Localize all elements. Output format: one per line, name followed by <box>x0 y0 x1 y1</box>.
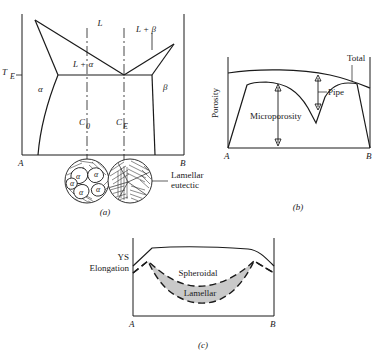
microstructure-hypoeutectic: α α α α α <box>65 157 110 204</box>
panel-c-ylabel-elongation: Elongation <box>90 263 130 273</box>
panel-a-caption: (a) <box>100 207 111 217</box>
panel-a-label-c0: C 0 <box>79 117 90 131</box>
panel-a-label-liquid-beta: L + β <box>135 24 156 34</box>
panel-a-label-ce: C E <box>116 117 128 131</box>
panel-b-pipe-arrow <box>315 75 327 110</box>
panel-a-label-alpha: α <box>38 84 43 94</box>
microstructure-lamellar-eutectic <box>108 159 152 203</box>
panel-b-label-pipe: Pipe <box>328 87 344 97</box>
panel-c-caption: (c) <box>198 340 208 350</box>
panel-a-phase-diagram: L L + α L + β α β T E C 0 C E A B <box>0 0 210 225</box>
panel-b-label-b-end: B <box>366 151 372 161</box>
panel-b-label-microporosity: Microporosity <box>250 111 302 121</box>
lamellar-eutectic-label-line2: eutectic <box>171 180 199 190</box>
panel-a-label-ce-main: C <box>116 117 123 127</box>
panel-a-label-liquid: L <box>96 18 102 28</box>
panel-a-solvus-right <box>152 75 155 155</box>
panel-a-solidus-right <box>152 44 174 75</box>
panel-b-label-a-end: A <box>223 151 230 161</box>
panel-c-ylabel-ys: YS <box>117 252 129 262</box>
lamellar-eutectic-label-line1: Lamellar <box>171 170 203 180</box>
panel-a-label-te: T E <box>2 67 15 81</box>
panel-b-label-total: Total <box>347 53 366 63</box>
panel-a-label-te-main: T <box>2 67 8 77</box>
panel-a-label-beta: β <box>162 82 168 92</box>
panel-a-label-liquid-alpha: L + α <box>72 59 93 69</box>
panel-a-label-te-sub: E <box>9 72 15 81</box>
panel-a-label-c0-main: C <box>79 117 86 127</box>
panel-a-solidus-left <box>35 20 58 75</box>
panel-a-label-ce-sub: E <box>122 122 128 131</box>
panel-c-label-a-end: A <box>128 319 135 329</box>
panel-b-porosity-chart: Pipe Microporosity Total Porosity A B (b… <box>200 35 385 215</box>
panel-a-label-c0-sub: 0 <box>86 122 90 131</box>
panel-b-ylabel: Porosity <box>210 88 220 119</box>
panel-a-liquidus-right <box>124 44 174 75</box>
panel-b-curve-total <box>228 70 370 88</box>
panel-c-label-lamellar: Lamellar <box>184 288 216 298</box>
panel-c-label-spheroidal: Spheroidal <box>179 268 218 278</box>
panel-b-caption: (b) <box>293 202 304 212</box>
panel-a-label-a-end: A <box>17 158 24 168</box>
panel-c-label-b-end: B <box>270 319 276 329</box>
panel-c-properties-chart: Spheroidal Lamellar YS Elongation A B (c… <box>90 228 305 355</box>
panel-a-label-b-end: B <box>180 158 186 168</box>
